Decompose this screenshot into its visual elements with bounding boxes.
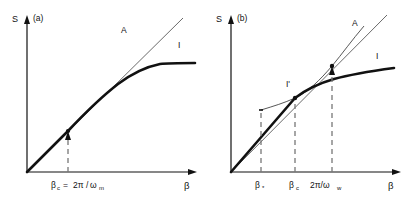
svg-text:c: c — [57, 185, 60, 191]
figure-container: S (a) β A I β c = 2π / ω m — [0, 0, 407, 199]
tick-label-beta-c-a: β c = 2π / ω m — [51, 180, 104, 191]
curve-label-I-prime-b: I' — [286, 79, 290, 89]
panel-a: S (a) β A I β c = 2π / ω m — [0, 0, 203, 199]
curve-a-line-I — [27, 63, 195, 172]
curve-b-line-A — [231, 15, 387, 172]
two-pi-omega-w-dashed-line-b — [329, 66, 335, 172]
svg-text:β: β — [289, 180, 294, 190]
svg-text:c: c — [296, 185, 299, 191]
y-axis-a — [24, 15, 30, 172]
svg-text:m: m — [99, 185, 104, 191]
tick-label-beta-c-b: β c — [289, 180, 299, 191]
beta-c-dashed-line-a — [65, 131, 71, 172]
x-axis-a — [27, 169, 197, 175]
svg-text:2π: 2π — [73, 180, 84, 190]
y-axis-label-a: S — [12, 14, 18, 24]
x-axis-label-a: β — [184, 180, 190, 191]
svg-text:β: β — [255, 180, 260, 190]
curve-label-I-b: I — [376, 51, 378, 61]
svg-text:2π/ω: 2π/ω — [310, 180, 330, 190]
tick-label-two-pi-omega-w-b: 2π/ω w — [310, 180, 342, 191]
x-axis-b — [231, 169, 401, 175]
svg-text:*: * — [262, 185, 265, 191]
svg-text:/: / — [86, 180, 89, 190]
y-axis-b — [228, 15, 234, 172]
curve-b-line-I-prime — [261, 26, 364, 110]
panel-tag-b: (b) — [237, 13, 248, 23]
beta-c-marker-b — [293, 96, 297, 100]
curve-b-line-I — [231, 68, 394, 172]
svg-text:=: = — [63, 180, 68, 190]
curve-label-I-a: I — [178, 40, 180, 50]
tick-label-beta-star-b: β * — [255, 180, 265, 191]
svg-text:ω: ω — [90, 180, 97, 190]
svg-text:β: β — [51, 180, 56, 190]
x-axis-label-b: β — [388, 180, 394, 191]
panel-b: S (b) β A I' I β * β c 2π/ω w — [204, 0, 407, 199]
svg-text:w: w — [336, 185, 342, 191]
panel-b-plot: S (b) β A I' I β * β c 2π/ω w — [204, 0, 407, 199]
panel-tag-a: (a) — [33, 13, 44, 23]
curve-label-A-a: A — [121, 25, 127, 35]
y-axis-label-b: S — [216, 14, 222, 24]
panel-a-plot: S (a) β A I β c = 2π / ω m — [0, 0, 203, 199]
curve-label-A-b: A — [352, 18, 358, 28]
